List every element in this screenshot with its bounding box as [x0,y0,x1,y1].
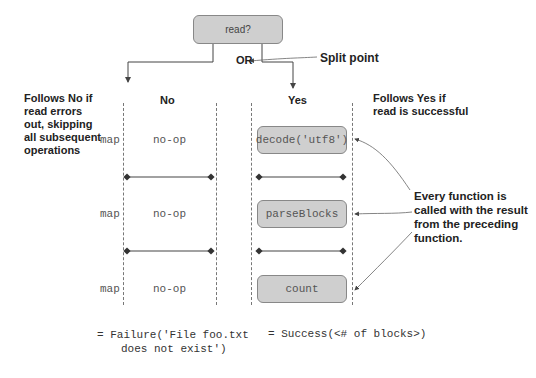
rail-yes-right [352,103,353,305]
callout-line: from the preceding [414,217,528,231]
no-op-3: no-op [153,283,186,295]
railway-diagram: read? OR Split point No Yes Follows No i… [0,0,536,378]
or-label: OR [236,54,253,66]
decision-label: read? [225,24,251,35]
function-chain-callout: Every function is called with the result… [414,189,528,245]
annotation-line: Follows Yes if [373,92,468,105]
yes-branch-annotation: Follows Yes if read is successful [373,92,468,118]
failure-line: does not exist') [97,342,249,356]
annotation-line: operations [24,144,101,157]
rail-no-left [123,103,124,305]
annotation-line: Follows No if [24,92,101,105]
function-node-decode: decode('utf8') [257,126,347,154]
function-node-count: count [257,275,347,303]
map-label-1: map [100,134,120,146]
map-label-3: map [100,283,120,295]
function-label: decode('utf8') [256,134,348,146]
no-branch-annotation: Follows No if read errors out, skipping … [24,92,101,157]
no-op-1: no-op [153,134,186,146]
rail-no-right [216,103,217,305]
branch-no-label: No [160,94,175,106]
failure-result: = Failure('File foo.txt does not exist') [97,328,249,356]
branch-yes-label: Yes [288,94,307,106]
map-label-2: map [100,208,120,220]
failure-line: = Failure('File foo.txt [97,328,249,342]
callout-line: function. [414,231,528,245]
function-label: count [285,283,318,295]
split-point-callout: Split point [320,51,379,65]
annotation-line: read errors [24,105,101,118]
function-node-parseblocks: parseBlocks [257,200,347,228]
annotation-line: all subsequent [24,131,101,144]
success-result: = Success(<# of blocks>) [268,328,426,340]
decision-node-read: read? [193,15,283,44]
callout-line: Every function is [414,189,528,203]
annotation-line: read is successful [373,105,468,118]
callout-line: called with the result [414,203,528,217]
rail-yes-left [251,103,252,305]
annotation-line: out, skipping [24,118,101,131]
no-op-2: no-op [153,208,186,220]
function-label: parseBlocks [266,208,339,220]
